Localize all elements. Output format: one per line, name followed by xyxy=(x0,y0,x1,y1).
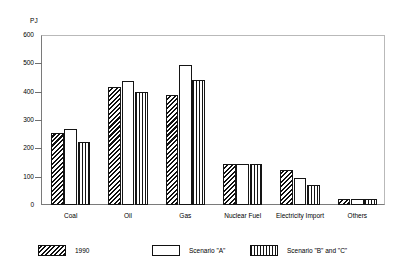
chart-legend: 1990Scenario "A"Scenario "B" and "C" xyxy=(0,243,402,263)
legend-item: Scenario "A" xyxy=(152,243,225,257)
legend-item: Scenario "B" and "C" xyxy=(250,243,347,257)
y-axis-tick-label: 300 xyxy=(4,116,34,123)
bar xyxy=(280,170,293,205)
bar-group xyxy=(280,35,319,205)
bar xyxy=(250,164,263,205)
y-axis-tick xyxy=(35,92,42,93)
bar-group xyxy=(166,35,205,205)
legend-swatch xyxy=(38,245,66,256)
bar-chart: PJ 0100200300400500600 CoalOilGasNuclear… xyxy=(0,0,402,272)
y-axis-tick xyxy=(35,148,42,149)
y-axis-tick-label: 400 xyxy=(4,88,34,95)
legend-item: 1990 xyxy=(38,243,89,257)
bar xyxy=(338,199,351,205)
bar-group xyxy=(223,35,262,205)
bar xyxy=(51,133,64,205)
x-axis-category-label: Electricity Import xyxy=(276,212,324,219)
y-axis-tick-label: 100 xyxy=(4,173,34,180)
y-axis-tick xyxy=(35,177,42,178)
x-axis-category-label: Gas xyxy=(179,212,191,219)
bar xyxy=(223,164,236,205)
bar xyxy=(78,142,91,205)
bar xyxy=(108,87,121,205)
y-axis-tick-label: 0 xyxy=(4,201,34,208)
legend-label: Scenario "B" and "C" xyxy=(287,247,347,254)
y-axis-tick-label: 600 xyxy=(4,31,34,38)
bar-group xyxy=(338,35,377,205)
legend-label: 1990 xyxy=(75,247,89,254)
x-axis-category-label: Coal xyxy=(64,212,77,219)
bar xyxy=(364,199,377,205)
bar xyxy=(179,65,192,205)
y-axis-unit-label: PJ xyxy=(30,17,38,24)
y-axis-tick xyxy=(35,120,42,121)
legend-label: Scenario "A" xyxy=(189,247,225,254)
x-axis-category-label: Oil xyxy=(124,212,132,219)
x-axis-category-label: Nuclear Fuel xyxy=(224,212,261,219)
bar xyxy=(122,81,135,205)
bar-group xyxy=(51,35,90,205)
bar xyxy=(351,199,364,205)
bar xyxy=(64,129,77,206)
bar xyxy=(294,178,307,205)
bar xyxy=(135,92,148,205)
x-axis-category-label: Others xyxy=(348,212,368,219)
y-axis-tick xyxy=(35,63,42,64)
legend-swatch xyxy=(250,245,278,256)
y-axis-tick-label: 500 xyxy=(4,59,34,66)
legend-swatch xyxy=(152,245,180,256)
bar xyxy=(307,185,320,205)
bars-layer xyxy=(42,35,385,205)
bar xyxy=(192,80,205,205)
bar-group xyxy=(108,35,147,205)
y-axis-tick-label: 200 xyxy=(4,144,34,151)
bar xyxy=(236,164,249,205)
bar xyxy=(166,95,179,205)
